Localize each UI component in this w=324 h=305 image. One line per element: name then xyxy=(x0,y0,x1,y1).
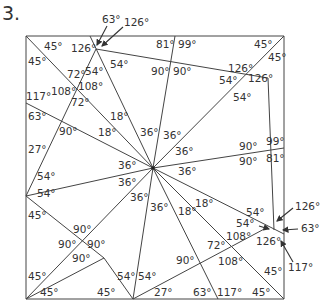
angle-label: 54° xyxy=(117,270,136,282)
angle-label: 54° xyxy=(37,187,56,199)
pointer-arrow-icon xyxy=(281,241,293,262)
angle-label: 63° xyxy=(301,222,320,234)
angle-label: 126° xyxy=(256,235,281,247)
angle-label: 27° xyxy=(154,286,173,298)
angle-label: 36° xyxy=(175,145,194,157)
angle-label: 90° xyxy=(72,252,91,264)
angle-label: 99° xyxy=(178,38,197,50)
angle-label: 126° xyxy=(124,16,149,28)
dividing-line xyxy=(153,168,284,234)
dividing-line xyxy=(90,36,153,168)
angle-label: 45° xyxy=(44,40,63,52)
angle-label: 72° xyxy=(71,96,90,108)
angle-label: 27° xyxy=(28,143,47,155)
angle-label: 90° xyxy=(239,140,258,152)
angle-label: 63° xyxy=(102,13,121,25)
angle-label: 90° xyxy=(73,223,92,235)
angle-label: 117° xyxy=(26,90,51,102)
angle-label: 63° xyxy=(193,286,212,298)
dissected-square-diagram: 63°126°45°126°81°99°45°45°54°54°90°90°12… xyxy=(0,0,324,305)
angle-label: 99° xyxy=(266,135,285,147)
dividing-line xyxy=(153,148,284,168)
dividing-line xyxy=(153,36,175,168)
angle-label: 18° xyxy=(178,205,197,217)
angle-label: 117° xyxy=(288,261,313,273)
angle-label: 126° xyxy=(71,42,96,54)
angle-label: 36° xyxy=(130,191,149,203)
angle-label: 72° xyxy=(207,239,226,251)
angle-label: 54° xyxy=(138,270,157,282)
angle-label: 90° xyxy=(87,238,106,250)
angle-label: 54° xyxy=(236,217,255,229)
center-point xyxy=(151,166,155,170)
angle-label: 126° xyxy=(295,200,320,212)
angle-label: 45° xyxy=(97,286,116,298)
angle-label: 45° xyxy=(264,265,283,277)
angle-label: 36° xyxy=(150,201,169,213)
dividing-line xyxy=(153,168,284,299)
angle-label: 45° xyxy=(28,55,47,67)
angle-label: 108° xyxy=(78,80,103,92)
angle-label: 45° xyxy=(252,286,271,298)
angle-label: 36° xyxy=(163,129,182,141)
dividing-line xyxy=(153,168,218,299)
angle-labels: 63°126°45°126°81°99°45°45°54°54°90°90°12… xyxy=(26,13,320,298)
angle-label: 54° xyxy=(85,65,104,77)
angle-label: 90° xyxy=(58,238,77,250)
angle-label: 54° xyxy=(233,91,252,103)
angle-label: 90° xyxy=(176,254,195,266)
angle-label: 90° xyxy=(59,125,78,137)
angle-label: 45° xyxy=(40,286,59,298)
angle-label: 18° xyxy=(110,110,129,122)
angle-label: 54° xyxy=(37,170,56,182)
angle-label: 81° xyxy=(266,152,285,164)
angle-label: 18° xyxy=(195,197,214,209)
angle-label: 36° xyxy=(140,126,159,138)
pointer-arrow-icon xyxy=(283,229,298,230)
angle-label: 45° xyxy=(268,51,287,63)
angle-label: 90° xyxy=(239,155,258,167)
angle-label: 90° xyxy=(151,65,170,77)
angle-label: 45° xyxy=(28,209,47,221)
angle-label: 90° xyxy=(173,65,192,77)
angle-label: 36° xyxy=(118,159,137,171)
angle-label: 72° xyxy=(67,68,86,80)
angle-label: 45° xyxy=(254,38,273,50)
angle-label: 54° xyxy=(110,58,129,70)
angle-label: 36° xyxy=(178,165,197,177)
angle-label: 117° xyxy=(217,286,242,298)
dividing-line xyxy=(153,36,284,168)
angle-label: 36° xyxy=(118,176,137,188)
angle-label: 54° xyxy=(219,74,238,86)
angle-label: 45° xyxy=(28,270,47,282)
angle-label: 81° xyxy=(156,38,175,50)
angle-label: 126° xyxy=(248,72,273,84)
angle-label: 108° xyxy=(218,255,243,267)
pointer-arrow-icon xyxy=(277,208,293,221)
angle-label: 18° xyxy=(98,126,117,138)
angle-label: 108° xyxy=(226,230,251,242)
angle-label: 63° xyxy=(28,110,47,122)
